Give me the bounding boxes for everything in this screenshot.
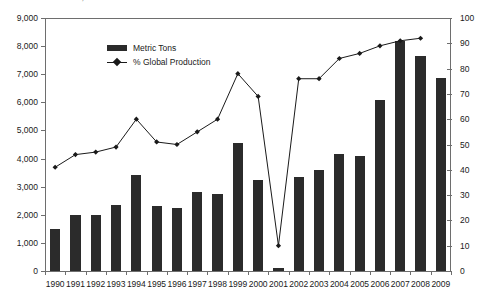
x-axis-tick-label: 2003 xyxy=(310,280,329,289)
x-axis-tick xyxy=(451,271,452,275)
y-axis-left-tick-label: 7,000 xyxy=(17,70,38,79)
y-axis-left-tick-label: 3,000 xyxy=(17,183,38,192)
y-axis-left-tick-label: 6,000 xyxy=(17,98,38,107)
plot-area: 01,0002,0003,0004,0005,0006,0007,0008,00… xyxy=(45,18,451,271)
x-axis-tick-label: 2002 xyxy=(289,280,308,289)
x-axis-tick-label: 2009 xyxy=(431,280,450,289)
line-data-point xyxy=(398,38,403,43)
x-axis-tick-label: 1997 xyxy=(188,280,207,289)
y-axis-right-tick-label: 90 xyxy=(460,39,469,48)
line-data-point xyxy=(377,43,382,48)
y-axis-left-tick-label: 9,000 xyxy=(17,14,38,23)
line-series-global-production xyxy=(45,18,451,272)
y-axis-left-tick-label: 1,000 xyxy=(17,239,38,248)
chart-title: % Global Production, 1990-2009 xyxy=(6,0,123,2)
line-data-point xyxy=(73,152,78,157)
line-marker-swatch-icon xyxy=(107,59,127,66)
line-data-point xyxy=(53,165,58,170)
x-axis-tick-label: 2001 xyxy=(269,280,288,289)
line-data-point xyxy=(296,76,301,81)
line-data-point xyxy=(195,129,200,134)
y-axis-left-tick-label: 4,000 xyxy=(17,155,38,164)
x-axis-tick-label: 1999 xyxy=(228,280,247,289)
line-data-point xyxy=(174,142,179,147)
y-axis-right-tick-label: 60 xyxy=(460,115,469,124)
x-axis-tick-label: 2008 xyxy=(411,280,430,289)
y-axis-left-tick-label: 0 xyxy=(33,267,38,276)
y-axis-right-tick-label: 30 xyxy=(460,191,469,200)
y-axis-right-tick-label: 40 xyxy=(460,166,469,175)
line-data-point xyxy=(93,149,98,154)
x-axis-tick-label: 1991 xyxy=(66,280,85,289)
x-axis-tick-label: 1996 xyxy=(167,280,186,289)
y-axis-right-tick-label: 50 xyxy=(460,141,469,150)
y-axis-right-tick-label: 100 xyxy=(460,14,474,23)
bar-swatch-icon xyxy=(107,45,127,51)
x-axis-tick-label: 2007 xyxy=(391,280,410,289)
x-axis-tick-label: 1994 xyxy=(127,280,146,289)
y-axis-right-tick-label: 80 xyxy=(460,65,469,74)
line-data-point xyxy=(215,117,220,122)
y-axis-right-tick-label: 20 xyxy=(460,216,469,225)
chart-legend: Metric Tons % Global Production xyxy=(107,42,211,70)
legend-label-metric-tons: Metric Tons xyxy=(133,44,176,53)
y-axis-right-tick-label: 70 xyxy=(460,90,469,99)
x-axis-tick-label: 1993 xyxy=(107,280,126,289)
chart-figure: % Global Production, 1990-2009 01,0002,0… xyxy=(0,0,496,300)
line-data-point xyxy=(418,36,423,41)
legend-item-global-production: % Global Production xyxy=(107,56,211,68)
y-axis-left-tick-label: 5,000 xyxy=(17,126,38,135)
x-axis-tick-label: 2000 xyxy=(249,280,268,289)
y-axis-right-tick-label: 0 xyxy=(460,267,465,276)
x-axis-tick-label: 1995 xyxy=(147,280,166,289)
x-axis-tick-label: 2006 xyxy=(370,280,389,289)
legend-item-metric-tons: Metric Tons xyxy=(107,42,211,54)
line-data-point xyxy=(357,51,362,56)
x-axis-tick-label: 1990 xyxy=(46,280,65,289)
x-axis-tick-label: 2005 xyxy=(350,280,369,289)
legend-label-global-production: % Global Production xyxy=(133,58,211,67)
y-axis-right-tick-label: 10 xyxy=(460,242,469,251)
x-axis-tick-label: 1998 xyxy=(208,280,227,289)
line-data-point xyxy=(276,243,281,248)
y-axis-left-tick-label: 8,000 xyxy=(17,42,38,51)
x-axis-tick-label: 1992 xyxy=(86,280,105,289)
y-axis-left-tick-label: 2,000 xyxy=(17,211,38,220)
x-axis-tick-label: 2004 xyxy=(330,280,349,289)
